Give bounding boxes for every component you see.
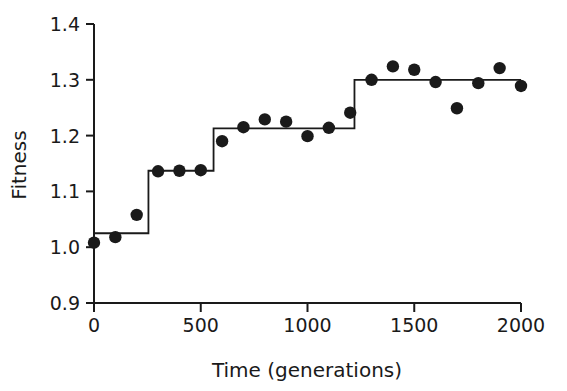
data-point <box>237 121 249 133</box>
y-tick-label: 1.4 <box>50 13 80 35</box>
data-point <box>131 209 143 221</box>
fitness-step-chart: 0.91.01.11.21.31.4 0500100015002000 Time… <box>0 0 567 391</box>
y-tick-label: 1.0 <box>50 236 80 258</box>
data-point-markers <box>88 60 527 249</box>
data-point <box>387 60 399 72</box>
data-point <box>408 64 420 76</box>
data-point <box>429 76 441 88</box>
data-point <box>365 74 377 86</box>
x-tick-label: 1000 <box>283 314 331 336</box>
y-tick-label: 1.1 <box>50 180 80 202</box>
x-tick-label: 0 <box>88 314 100 336</box>
y-tick-label: 1.3 <box>50 69 80 91</box>
data-point <box>109 231 121 243</box>
chart-canvas: 0.91.01.11.21.31.4 0500100015002000 Time… <box>0 0 567 391</box>
data-point <box>173 165 185 177</box>
data-point <box>280 115 292 127</box>
x-tick-label: 500 <box>183 314 219 336</box>
data-point <box>344 107 356 119</box>
x-axis-ticks <box>94 303 521 312</box>
x-tick-label: 1500 <box>390 314 438 336</box>
data-point <box>216 135 228 147</box>
data-point <box>515 80 527 92</box>
data-point <box>88 237 100 249</box>
x-tick-label: 2000 <box>497 314 545 336</box>
data-point <box>493 62 505 74</box>
data-point <box>195 164 207 176</box>
y-tick-label: 0.9 <box>50 292 80 314</box>
data-point <box>152 165 164 177</box>
axis-lines <box>94 24 521 303</box>
data-point <box>451 102 463 114</box>
x-axis-title: Time (generations) <box>211 358 402 382</box>
data-point <box>323 122 335 134</box>
y-axis-tick-labels: 0.91.01.11.21.31.4 <box>50 13 80 314</box>
x-axis-tick-labels: 0500100015002000 <box>88 314 545 336</box>
data-point <box>472 77 484 89</box>
y-axis-ticks <box>86 24 94 303</box>
data-point <box>301 130 313 142</box>
y-tick-label: 1.2 <box>50 125 80 147</box>
y-axis-title: Fitness <box>7 130 31 199</box>
data-point <box>259 113 271 125</box>
